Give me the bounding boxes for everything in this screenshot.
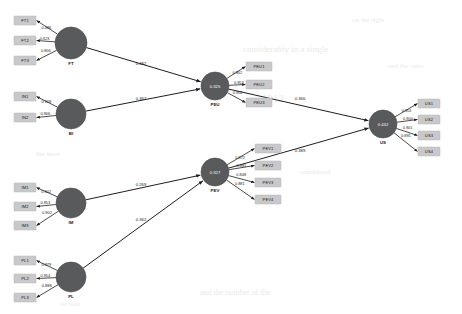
path-pl-to-pev [83,181,203,268]
path-coefficient-pl-pev: 0.362 [136,217,147,222]
construct-label: US [380,140,386,145]
construct-pev[interactable]: 0.327PEV [201,158,229,193]
indicator-label: US3 [425,133,434,138]
construct-peu[interactable]: 0.325PEU [201,72,229,107]
loading-pl3: 0.888 [42,283,52,288]
loading-peu2: 0.953 [234,80,244,85]
indicator-label: PEU1 [253,64,265,69]
loading-pev4: 0.881 [235,181,245,186]
indicator-us2: US2 [418,115,440,124]
indicator-im3: IM3 [14,221,36,230]
loading-in2: 0.906 [40,111,50,116]
loading-pev3: 0.848 [236,172,246,177]
indicator-im2: IM2 [14,202,36,211]
indicator-label: IM3 [21,223,29,228]
construct-ft[interactable]: FT [55,27,87,66]
path-coefficient-ft-peu: 0.482 [136,61,147,66]
loading-pev2: 0.881 [237,163,247,168]
loading-ft2: 0.623 [40,36,50,41]
constructs-layer: FTBIIMPL0.325PEU0.327PEV0.432US [55,27,397,299]
indicator-pev1: PEV1 [255,144,281,153]
indicator-label: US1 [425,101,434,106]
path-im-to-pev [86,175,201,200]
loading-us4: 0.891 [401,133,411,138]
indicator-label: PEU2 [253,82,265,87]
indicator-label: FT2 [21,38,29,43]
construct-circle[interactable] [56,262,86,292]
loading-ft1: 0.486 [42,25,52,30]
r-squared-value: 0.327 [210,170,221,175]
construct-label: FT [68,61,74,66]
indicator-pl2: PL2 [14,274,36,283]
indicator-label: PL3 [21,295,29,300]
indicator-peu3: PEU3 [246,98,272,107]
indicator-label: FT3 [21,58,29,63]
loading-im3: 0.902 [42,210,52,215]
measurement-arrow [37,278,57,279]
indicator-label: PEV2 [263,163,274,168]
loading-peu3: 0.902 [233,90,243,95]
indicator-label: US4 [425,149,434,154]
construct-im[interactable]: IM [56,188,86,225]
indicator-label: IM1 [21,185,29,190]
indicator-label: FT1 [21,18,29,23]
loading-us1: 0.901 [402,108,412,113]
indicator-pl3: PL3 [14,293,36,302]
loading-im2: 0.853 [40,200,50,205]
loading-pev1: 0.872 [235,155,245,160]
r-squared-value: 0.432 [378,122,389,127]
indicator-ft1: FT1 [14,16,36,25]
indicator-label: PL1 [21,258,29,263]
construct-circle[interactable] [56,188,86,218]
loading-us2: 0.900 [403,116,414,121]
indicators-layer: FT1FT2FT3IN1IN2IM1IM2IM3PL1PL2PL3PEU1PEU… [14,16,440,302]
loading-im1: 0.902 [41,189,51,194]
indicator-peu2: PEU2 [246,80,272,89]
indicator-pev3: PEV3 [255,178,281,187]
loading-pl1: 0.879 [41,262,51,267]
labels-layer: 0.4860.6230.8060.9090.9060.9020.8530.902… [40,25,414,288]
construct-label: PEU [210,102,219,107]
construct-circle[interactable] [56,99,86,129]
construct-label: PEV [211,188,220,193]
construct-label: BI [69,131,73,136]
path-model-svg: FT1FT2FT3IN1IN2IM1IM2IM3PL1PL2PL3PEU1PEU… [0,0,462,314]
path-coefficient-im-pev: 0.269 [136,182,147,187]
indicator-im1: IM1 [14,183,36,192]
indicator-ft3: FT3 [14,56,36,65]
loading-pl2: 0.954 [40,273,51,278]
indicator-in2: IN2 [14,113,36,122]
construct-bi[interactable]: BI [56,99,86,136]
edges-layer [37,21,418,298]
indicator-label: US2 [425,117,434,122]
indicator-us4: US4 [418,147,440,156]
loading-us3: 0.901 [403,125,413,130]
diagram-canvas: on the rightconsiderably in a singleand … [0,0,462,314]
indicator-pl1: PL1 [14,256,36,265]
path-coefficient-bi-peu: 0.367 [136,96,147,101]
indicator-label: PL2 [21,276,29,281]
construct-circle[interactable] [55,27,87,59]
loading-peu1: 0.902 [232,70,242,75]
indicator-label: IN1 [22,94,29,99]
construct-label: IM [69,220,74,225]
indicator-pev2: PEV2 [255,161,281,170]
indicator-us3: US3 [418,131,440,140]
indicator-label: PEV4 [263,197,274,202]
path-coefficient-peu-us: 0.366 [295,96,306,101]
indicator-label: PEV3 [263,180,274,185]
indicator-pev4: PEV4 [255,195,281,204]
indicator-ft2: FT2 [14,36,36,45]
indicator-label: IN2 [22,115,29,120]
r-squared-value: 0.325 [210,84,221,89]
construct-label: PL [68,294,74,299]
construct-us[interactable]: 0.432US [369,110,397,145]
indicator-peu1: PEU1 [246,62,272,71]
path-coefficient-pev-us: 0.389 [295,148,306,153]
construct-pl[interactable]: PL [56,262,86,299]
indicator-in1: IN1 [14,92,36,101]
indicator-label: IM2 [21,204,29,209]
indicator-us1: US1 [418,99,440,108]
loading-ft3: 0.806 [41,48,51,53]
loading-in1: 0.909 [42,99,52,104]
